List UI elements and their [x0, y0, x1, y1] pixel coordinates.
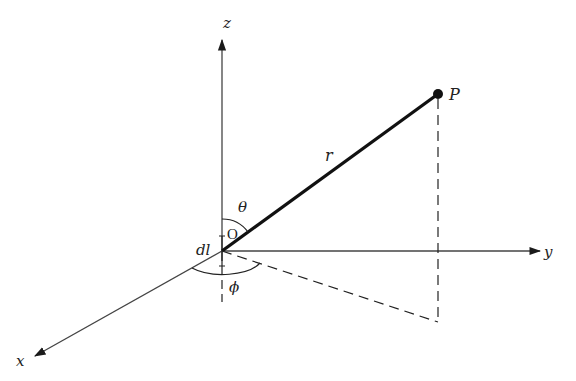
spherical-coordinate-diagram: z y x P r O θ ϕ dl [0, 0, 576, 381]
x-axis-label: x [16, 352, 25, 370]
radius-line [222, 94, 438, 251]
phi-arc [192, 263, 260, 274]
x-axis [35, 251, 222, 356]
dl-label: dl [196, 241, 211, 259]
origin-label: O [227, 226, 238, 242]
point-label: P [448, 85, 460, 104]
point-p [433, 89, 443, 99]
z-axis-label: z [222, 14, 231, 32]
y-axis-label: y [543, 243, 553, 261]
phi-label: ϕ [229, 278, 239, 296]
projection-radial [222, 251, 438, 322]
theta-label: θ [238, 198, 247, 216]
radius-label: r [325, 146, 334, 165]
